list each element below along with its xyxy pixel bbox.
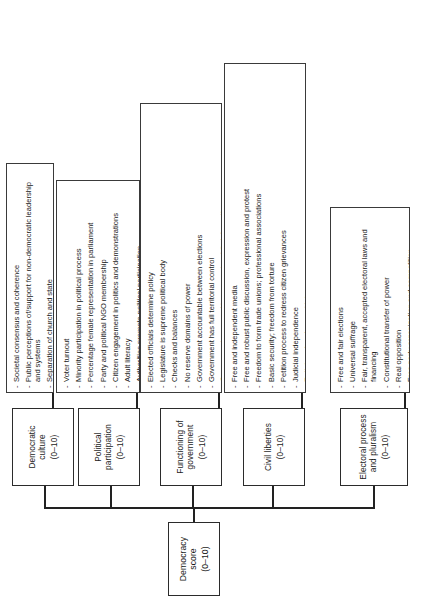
list-item: Constitutional transfer of power bbox=[382, 213, 391, 388]
connector-functioning-of-government-to-list bbox=[218, 392, 220, 408]
connector-root-stem bbox=[193, 508, 195, 522]
list-item: Authorities promote political participat… bbox=[135, 186, 140, 388]
category-node-electoral-process-and-pluralism: Electoral process and pluralism (0–10) bbox=[340, 408, 408, 486]
connector-to-functioning-of-government bbox=[192, 485, 194, 509]
list-item: Free and robust public discussion, expre… bbox=[242, 69, 251, 388]
list-item: Free party organization and competition bbox=[406, 213, 410, 388]
list-item: Free and fair elections bbox=[336, 213, 345, 388]
category-range: (0–10) bbox=[380, 435, 390, 460]
category-title: Political participation bbox=[93, 424, 113, 470]
list-item: Free and independent media bbox=[230, 69, 239, 388]
connector-to-electoral-process bbox=[373, 485, 375, 509]
connector-electoral-process-to-list bbox=[404, 392, 406, 408]
list-item: Fair, transparent, accepted electoral la… bbox=[360, 213, 378, 388]
list-item: Elected officials determine policy bbox=[146, 109, 155, 388]
list-item: Real opposition bbox=[394, 213, 403, 388]
list-item: Freedom to form trade unions; profession… bbox=[254, 69, 263, 388]
indicator-list-electoral-process-and-pluralism: Free and fair elections Universal suffra… bbox=[330, 207, 410, 393]
democracy-index-tree-diagram: Democracy score (0–10) Electoral process… bbox=[0, 0, 425, 604]
list-item: Citizen engagement in politics and demon… bbox=[111, 186, 120, 388]
category-range: (0–10) bbox=[197, 435, 207, 460]
indicator-list-civil-liberties: Free and independent media Free and robu… bbox=[224, 63, 306, 393]
category-title: Functioning of government bbox=[175, 420, 195, 474]
indicator-list-functioning-of-government: Elected officials determine policy Legis… bbox=[140, 103, 222, 393]
root-node-range: (0–10) bbox=[200, 546, 210, 571]
root-node-democracy-score: Democracy score (0–10) bbox=[168, 522, 220, 596]
indicator-list: Societal consensus and coherence Public … bbox=[12, 169, 54, 388]
list-item: No reserve domains of power bbox=[183, 109, 192, 388]
connector-to-political-participation bbox=[110, 485, 112, 509]
list-item: Minority participation in political proc… bbox=[74, 186, 83, 388]
connector-political-participation-to-list bbox=[136, 392, 138, 408]
list-item: Societal consensus and coherence bbox=[12, 169, 21, 388]
category-node-democratic-culture: Democratic culture (0–10) bbox=[12, 408, 74, 486]
rotated-figure-wrapper: Democracy score (0–10) Electoral process… bbox=[0, 0, 425, 604]
connector-democratic-culture-to-list bbox=[52, 392, 54, 408]
connector-root-spine bbox=[44, 507, 374, 509]
list-item: Judicial independence bbox=[291, 69, 300, 388]
indicator-list-political-participation: Voter turnout Minority participation in … bbox=[56, 180, 140, 393]
list-item: Religious freedom and tolerance bbox=[303, 69, 306, 388]
indicator-list: Free and independent media Free and robu… bbox=[230, 69, 306, 388]
category-range: (0–10) bbox=[115, 435, 125, 460]
list-item: Government open and transparent; public … bbox=[219, 109, 222, 388]
list-item: Public perceptions of/support for non-de… bbox=[24, 169, 42, 388]
list-item: Legislature is supreme political body bbox=[158, 109, 167, 388]
indicator-list-democratic-culture: Societal consensus and coherence Public … bbox=[6, 163, 54, 393]
list-item: Party and political NGO membership bbox=[99, 186, 108, 388]
connector-civil-liberties-to-list bbox=[301, 392, 303, 408]
list-item: Separation of church and state bbox=[45, 169, 54, 388]
indicator-list: Free and fair elections Universal suffra… bbox=[336, 213, 410, 388]
list-item: Petition process to redress citizen grie… bbox=[279, 69, 288, 388]
category-range: (0–10) bbox=[275, 435, 285, 460]
indicator-list: Elected officials determine policy Legis… bbox=[146, 109, 222, 388]
list-item: Government has full territorial control bbox=[207, 109, 216, 388]
list-item: Checks and balances bbox=[170, 109, 179, 388]
category-node-civil-liberties: Civil liberties (0–10) bbox=[243, 408, 305, 486]
category-title: Electoral process and pluralism bbox=[358, 414, 378, 479]
list-item: Government accountable between elections bbox=[195, 109, 204, 388]
indicator-list: Voter turnout Minority participation in … bbox=[62, 186, 140, 388]
category-node-functioning-of-government: Functioning of government (0–10) bbox=[160, 408, 222, 486]
category-node-political-participation: Political participation (0–10) bbox=[78, 408, 140, 486]
connector-to-democratic-culture bbox=[44, 485, 46, 509]
list-item: Universal suffrage bbox=[348, 213, 357, 388]
root-node-title: Democracy score bbox=[178, 526, 198, 592]
category-title: Civil liberties bbox=[263, 423, 273, 471]
list-item: Adult literacy bbox=[123, 186, 132, 388]
list-item: Basic security; freedom from torture bbox=[267, 69, 276, 388]
connector-to-civil-liberties bbox=[272, 485, 274, 509]
category-range: (0–10) bbox=[49, 435, 59, 460]
list-item: Voter turnout bbox=[62, 186, 71, 388]
list-item: Percentage female representation in parl… bbox=[86, 186, 95, 388]
category-title: Democratic culture bbox=[27, 426, 47, 469]
